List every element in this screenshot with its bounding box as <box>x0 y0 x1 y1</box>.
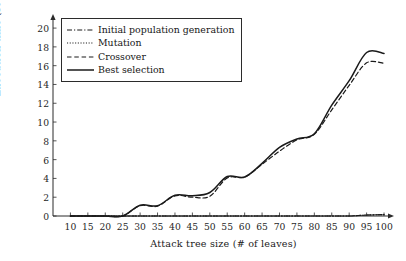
x-tick-label: 15 <box>82 221 94 232</box>
x-tick-label: 45 <box>187 221 199 232</box>
x-tick-label: 20 <box>99 221 111 232</box>
x-axis-label: Attack tree size (# of leaves) <box>53 238 394 249</box>
x-tick-label: 75 <box>291 221 303 232</box>
y-tick-label: 18 <box>27 41 49 52</box>
y-tick-label: 8 <box>27 135 49 146</box>
x-tick-label: 55 <box>221 221 233 232</box>
y-tick-label: 20 <box>27 23 49 34</box>
y-axis-arrow <box>50 14 55 20</box>
y-axis-label: Execution time (seconds) <box>0 0 2 117</box>
x-tick-label: 35 <box>152 221 164 232</box>
chart-legend: Initial population generation Mutation C… <box>61 18 242 82</box>
x-tick-label: 90 <box>343 221 355 232</box>
x-tick-label: 85 <box>326 221 338 232</box>
legend-label: Mutation <box>98 38 141 48</box>
x-tick-label: 60 <box>239 221 251 232</box>
x-tick-label: 10 <box>65 221 77 232</box>
x-tick-label: 100 <box>375 221 393 232</box>
y-tick-label: 0 <box>27 211 49 222</box>
x-tick-label: 95 <box>361 221 373 232</box>
legend-item: Crossover <box>67 50 234 64</box>
y-tick-label: 16 <box>27 60 49 71</box>
legend-item: Best selection <box>67 64 234 78</box>
legend-item: Mutation <box>67 37 234 51</box>
x-tick-label: 30 <box>134 221 146 232</box>
y-tick-label: 6 <box>27 154 49 165</box>
chart-figure: Execution time (seconds) 024681012141618… <box>0 0 406 261</box>
x-tick-label: 50 <box>204 221 216 232</box>
x-tick-label: 70 <box>274 221 286 232</box>
x-tick-label: 80 <box>308 221 320 232</box>
y-tick-label: 2 <box>27 192 49 203</box>
x-tick-label: 25 <box>117 221 129 232</box>
legend-label: Best selection <box>98 65 165 75</box>
legend-line-solid-icon <box>67 65 94 75</box>
y-tick-label: 14 <box>27 79 49 90</box>
series-line <box>70 61 384 216</box>
legend-item: Initial population generation <box>67 23 234 37</box>
legend-line-dashed-icon <box>67 52 94 62</box>
y-tick-label: 12 <box>27 98 49 109</box>
y-tick-label: 4 <box>27 173 49 184</box>
legend-line-dashdot-icon <box>67 25 94 35</box>
x-axis-arrow <box>388 213 394 218</box>
y-tick-label: 10 <box>27 117 49 128</box>
legend-label: Initial population generation <box>98 25 234 35</box>
legend-line-dotted-icon <box>67 38 94 48</box>
x-tick-label: 65 <box>256 221 268 232</box>
x-tick-label: 40 <box>169 221 181 232</box>
legend-label: Crossover <box>98 52 146 62</box>
